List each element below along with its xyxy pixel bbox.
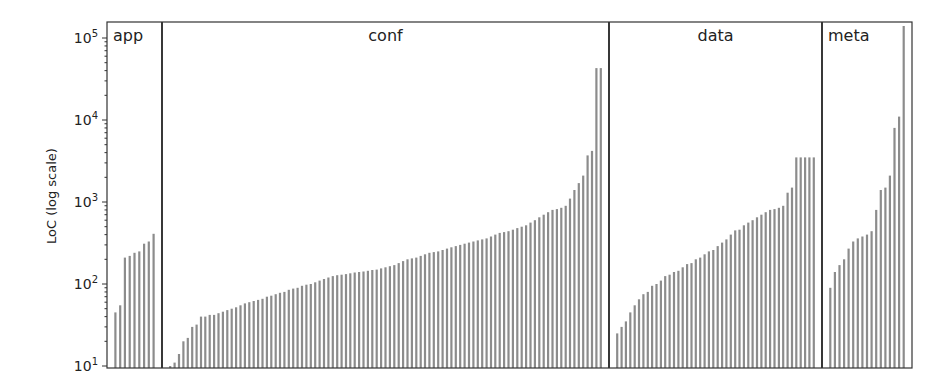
bar: [406, 259, 408, 368]
bar: [196, 325, 198, 368]
bar: [765, 212, 767, 368]
group-label-meta: meta: [828, 26, 870, 45]
bar: [270, 296, 272, 368]
bar: [503, 232, 505, 368]
bar: [621, 327, 623, 368]
bar: [362, 272, 364, 369]
bar: [279, 293, 281, 368]
bar: [529, 223, 531, 368]
bar: [464, 244, 466, 368]
bar: [866, 235, 868, 368]
bar: [266, 297, 268, 368]
bar: [358, 272, 360, 368]
bar: [297, 288, 299, 368]
group-label-conf: conf: [368, 26, 403, 45]
bar: [543, 215, 545, 368]
bar: [838, 265, 840, 368]
bar: [411, 258, 413, 368]
bar: [200, 317, 202, 368]
y-tick-label: 104: [74, 110, 98, 128]
bar: [848, 249, 850, 368]
bar: [595, 68, 597, 368]
bar: [494, 235, 496, 368]
bar: [743, 225, 745, 368]
bar: [699, 258, 701, 368]
bar: [556, 209, 558, 368]
bar: [534, 220, 536, 368]
bar: [734, 230, 736, 368]
bar: [884, 188, 886, 368]
bar: [651, 286, 653, 368]
bar: [446, 249, 448, 368]
bar: [213, 315, 215, 368]
bar: [217, 313, 219, 368]
bar: [778, 208, 780, 368]
group-labels: appconfdatameta: [113, 26, 870, 45]
bar: [591, 151, 593, 368]
bar: [490, 237, 492, 369]
bar: [402, 261, 404, 368]
bar: [398, 263, 400, 368]
bar: [791, 188, 793, 368]
bar: [415, 258, 417, 368]
bar: [660, 281, 662, 368]
bar: [664, 276, 666, 368]
bar: [875, 210, 877, 368]
bar: [204, 317, 206, 368]
bar: [275, 294, 277, 368]
bar: [738, 230, 740, 368]
bar: [305, 285, 307, 368]
bar: [769, 210, 771, 368]
bar: [834, 272, 836, 368]
bar: [336, 275, 338, 368]
bar: [686, 264, 688, 368]
bar: [450, 247, 452, 368]
bar: [148, 242, 150, 369]
bar: [459, 245, 461, 368]
bar: [525, 225, 527, 368]
bar: [367, 271, 369, 368]
bar: [787, 193, 789, 368]
bar: [898, 117, 900, 368]
bar: [143, 244, 145, 368]
bar: [301, 286, 303, 368]
bar: [288, 290, 290, 368]
bar: [314, 282, 316, 368]
bar: [642, 294, 644, 368]
bar: [808, 157, 810, 368]
bar: [800, 157, 802, 368]
bar: [209, 315, 211, 368]
bar: [261, 299, 263, 368]
bar: [114, 312, 116, 368]
bar: [795, 157, 797, 368]
bar: [124, 258, 126, 368]
bar: [371, 270, 373, 368]
bar: [655, 284, 657, 368]
bar: [499, 233, 501, 368]
bar: [756, 217, 758, 368]
bar: [455, 246, 457, 368]
bar: [747, 223, 749, 368]
y-tick-label: 105: [74, 28, 98, 46]
bar: [239, 305, 241, 368]
bar: [843, 259, 845, 368]
bar: [857, 238, 859, 368]
bar: [327, 278, 329, 369]
y-tick-label: 101: [74, 356, 98, 374]
bar: [442, 250, 444, 368]
bar: [468, 243, 470, 368]
bar: [682, 267, 684, 368]
bar: [138, 251, 140, 368]
y-tick-label: 102: [74, 274, 98, 292]
bar: [616, 333, 618, 368]
bar: [323, 279, 325, 368]
bar: [319, 281, 321, 368]
bar: [292, 289, 294, 368]
bar: [310, 284, 312, 368]
bar: [625, 321, 627, 368]
bar: [384, 267, 386, 368]
bar: [283, 292, 285, 368]
bar: [712, 250, 714, 368]
bar: [119, 305, 121, 368]
bar: [472, 242, 474, 369]
